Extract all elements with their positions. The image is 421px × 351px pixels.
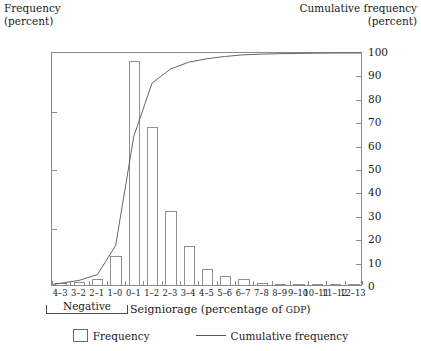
- x-tick-mark: [235, 281, 236, 285]
- x-tick-label: 12–13: [340, 288, 366, 298]
- x-tick-mark: [70, 281, 71, 285]
- x-tick-label: 6–7: [236, 288, 251, 298]
- cumulative-frequency-curve: [52, 53, 361, 285]
- x-tick-label: 1–0: [108, 288, 123, 298]
- x-tick-label: 2–1: [89, 288, 104, 298]
- right-tick-label: 80: [368, 93, 394, 105]
- x-tick-mark: [143, 281, 144, 285]
- right-tick-label: 30: [368, 210, 394, 222]
- right-tick-label: 0: [368, 280, 394, 292]
- x-tick-mark: [107, 281, 108, 285]
- x-tick-label: 2–3: [162, 288, 177, 298]
- x-tick-label: 7–8: [254, 288, 269, 298]
- right-tick-mark: [356, 170, 361, 171]
- x-tick-mark: [180, 281, 181, 285]
- plot-area: [51, 52, 362, 286]
- left-tick-mark: [52, 170, 57, 171]
- x-tick-label: 5–6: [217, 288, 232, 298]
- x-tick-label: 3–4: [181, 288, 196, 298]
- right-tick-label: 50: [368, 163, 394, 175]
- negative-range-label: Negative: [50, 300, 124, 312]
- right-tick-mark: [356, 264, 361, 265]
- right-axis-title: Cumulative frequency (percent): [299, 2, 417, 27]
- x-tick-mark: [198, 281, 199, 285]
- right-tick-mark: [356, 240, 361, 241]
- x-tick-label: 8–9: [272, 288, 287, 298]
- left-tick-mark: [52, 229, 57, 230]
- x-tick-mark: [272, 281, 273, 285]
- right-tick-label: 100: [368, 46, 394, 58]
- x-axis-title-paren: ): [306, 303, 310, 316]
- x-tick-label: 4–3: [53, 288, 68, 298]
- x-tick-mark: [125, 281, 126, 285]
- bar-swatch-icon: [73, 329, 88, 342]
- right-tick-label: 90: [368, 69, 394, 81]
- x-tick-mark: [345, 281, 346, 285]
- right-tick-mark: [356, 123, 361, 124]
- chart-legend: Frequency Cumulative frequency: [0, 329, 421, 342]
- right-tick-mark: [356, 193, 361, 194]
- left-tick-mark: [52, 112, 57, 113]
- x-tick-mark: [362, 281, 363, 285]
- legend-item-frequency: Frequency: [73, 329, 150, 342]
- right-tick-label: 70: [368, 116, 394, 128]
- x-tick-label: 3–2: [71, 288, 86, 298]
- x-tick-mark: [308, 281, 309, 285]
- left-axis-title: Frequency (percent): [4, 2, 61, 27]
- x-tick-label: 0–1: [126, 288, 141, 298]
- x-tick-mark: [253, 281, 254, 285]
- x-tick-mark: [52, 281, 53, 285]
- right-tick-label: 40: [368, 186, 394, 198]
- right-tick-mark: [356, 100, 361, 101]
- right-tick-label: 20: [368, 233, 394, 245]
- x-axis-title-text: Seigniorage (percentage of: [130, 303, 286, 316]
- right-tick-mark: [356, 147, 361, 148]
- x-tick-mark: [162, 281, 163, 285]
- right-tick-mark: [356, 217, 361, 218]
- x-tick-mark: [89, 281, 90, 285]
- x-axis-title-gdp: GDP: [286, 305, 306, 315]
- x-tick-mark: [290, 281, 291, 285]
- right-tick-label: 10: [368, 257, 394, 269]
- x-tick-label: 1–2: [144, 288, 159, 298]
- right-tick-mark: [356, 76, 361, 77]
- x-tick-mark: [326, 281, 327, 285]
- legend-label-frequency: Frequency: [93, 330, 150, 342]
- right-tick-label: 60: [368, 140, 394, 152]
- legend-item-cumulative: Cumulative frequency: [196, 330, 349, 342]
- x-tick-label: 4–5: [199, 288, 214, 298]
- x-axis-title: Seigniorage (percentage of GDP): [130, 303, 380, 316]
- line-swatch-icon: [196, 335, 226, 336]
- legend-label-cumulative: Cumulative frequency: [231, 330, 349, 342]
- x-tick-mark: [217, 281, 218, 285]
